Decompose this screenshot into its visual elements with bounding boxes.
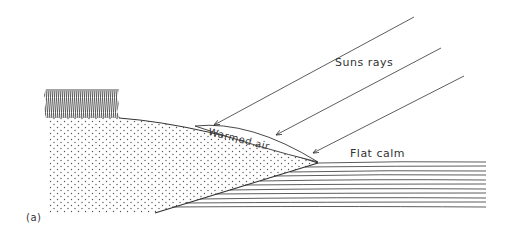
land-sand <box>48 118 318 213</box>
diagram-canvas <box>0 0 513 236</box>
vegetation-block <box>44 89 120 118</box>
panel-label: (a) <box>26 212 41 223</box>
suns-rays-label: Suns rays <box>335 56 393 69</box>
sun-ray-1 <box>214 17 414 125</box>
flat-calm-label: Flat calm <box>350 147 405 160</box>
sun-ray-3 <box>313 76 464 153</box>
